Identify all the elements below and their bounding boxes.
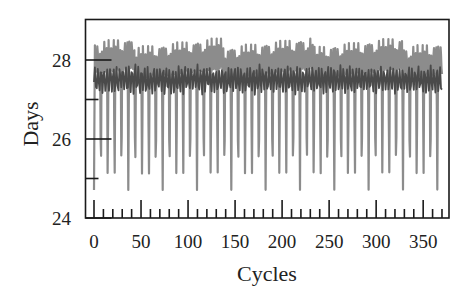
y-axis-label: Days bbox=[18, 101, 43, 146]
x-tick-label: 50 bbox=[132, 231, 151, 252]
y-tick-label: 26 bbox=[52, 129, 71, 150]
x-tick-label: 0 bbox=[89, 231, 99, 252]
x-tick-label: 350 bbox=[409, 231, 438, 252]
series-layer bbox=[94, 39, 442, 190]
y-axis-tick-labels: 242628 bbox=[52, 50, 72, 229]
x-axis-ticks bbox=[94, 200, 442, 218]
light-series-line bbox=[94, 39, 442, 190]
x-axis-label: Cycles bbox=[237, 261, 297, 286]
line-chart: 050100150200250300350 242628 Cycles Days bbox=[0, 0, 472, 305]
x-tick-label: 250 bbox=[315, 231, 344, 252]
x-axis-tick-labels: 050100150200250300350 bbox=[89, 231, 437, 252]
x-tick-label: 150 bbox=[221, 231, 250, 252]
x-tick-label: 100 bbox=[174, 231, 203, 252]
y-tick-label: 24 bbox=[52, 208, 72, 229]
x-tick-label: 300 bbox=[362, 231, 391, 252]
x-tick-label: 200 bbox=[268, 231, 297, 252]
y-tick-label: 28 bbox=[52, 50, 71, 71]
